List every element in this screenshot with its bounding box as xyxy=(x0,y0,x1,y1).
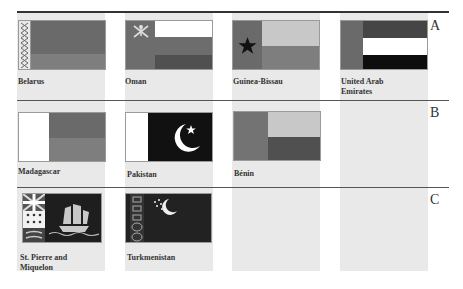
hoist-panel xyxy=(23,194,45,243)
row-letter-c: C xyxy=(430,192,439,208)
label-st-pierre-and-miquelon-line2: Miquelon xyxy=(20,262,53,273)
ship-icon xyxy=(49,200,99,238)
flag-turkmenistan xyxy=(125,193,212,243)
crescent-star-icon xyxy=(164,119,204,157)
label-turkmenistan: Turkmenistan xyxy=(127,252,175,263)
flag-pakistan xyxy=(125,112,213,162)
label-pakistan: Pakistan xyxy=(127,169,157,180)
star-icon xyxy=(238,36,257,55)
flag-belarus xyxy=(18,20,106,70)
label-oman: Oman xyxy=(125,76,146,87)
flag-guinea-bissau xyxy=(232,20,320,70)
row-divider-a-b xyxy=(17,100,449,101)
flag-st-pierre-and-miquelon xyxy=(22,193,102,243)
flag-united-arab-emirates xyxy=(340,20,428,70)
row-letter-b: B xyxy=(430,105,439,121)
row-divider-b-c xyxy=(17,187,449,188)
flag-madagascar xyxy=(18,112,106,162)
label-belarus: Belarus xyxy=(18,76,44,87)
flag-benin xyxy=(233,111,321,161)
flag-oman xyxy=(125,20,213,70)
label-guinea-bissau: Guinea-Bissau xyxy=(233,76,283,87)
emblem-icon xyxy=(131,23,151,39)
crescent-stars-icon xyxy=(151,197,179,217)
top-rule xyxy=(17,11,449,13)
label-madagascar: Madagascar xyxy=(18,166,60,177)
label-benin: Bénin xyxy=(234,168,254,179)
carpet-guls-band xyxy=(130,194,144,243)
row-letter-a: A xyxy=(430,18,440,34)
label-united-arab-emirates-line2: Emirates xyxy=(341,86,372,97)
ornament-band xyxy=(19,21,31,70)
